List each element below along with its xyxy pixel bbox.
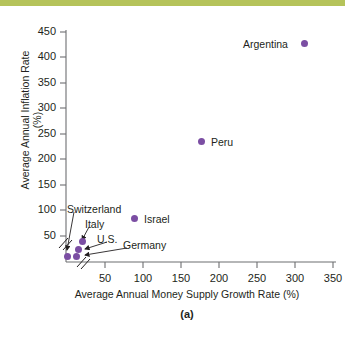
x-tick-label: 50 [90,272,120,284]
x-tick-marks [105,262,333,268]
x-axis-title: Average Annual Money Supply Growth Rate … [42,288,332,300]
panel-caption: (a) [42,308,332,320]
y-tick-label: 450 [22,25,56,37]
data-label-israel: Israel [144,213,170,225]
x-tick-label: 100 [128,272,158,284]
y-tick-label: 50 [22,229,56,241]
x-tick-label: 350 [318,272,345,284]
x-tick-label: 150 [166,272,196,284]
x-tick-label: 200 [204,272,234,284]
y-axis-title: Average Annual Inflation Rate (%) [19,45,43,195]
data-point-italy [79,238,86,245]
data-point-peru [198,138,205,145]
data-label-argentina: Argentina [243,38,288,50]
data-point-us [75,246,82,253]
data-label-us: U.S. [97,233,117,245]
data-label-germany: Germany [123,239,166,251]
data-point-argentina [301,40,308,47]
x-tick-label: 250 [242,272,272,284]
scatter-chart-figure: 450 400 350 300 250 200 150 100 50 50 10… [0,0,345,338]
x-tick-label: 300 [280,272,310,284]
data-point-israel [131,215,138,222]
y-tick-marks [60,32,66,236]
data-point-switzerland [64,253,71,260]
data-label-italy: Italy [85,218,104,230]
y-tick-label: 100 [22,203,56,215]
data-label-peru: Peru [211,136,233,148]
data-point-germany [73,253,80,260]
data-label-switzerland: Switzerland [67,203,121,215]
